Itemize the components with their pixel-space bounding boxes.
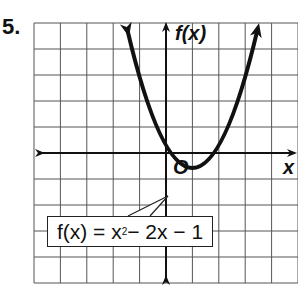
y-axis-label: f(x) [175,22,206,45]
equation-lhs: f(x) = x [57,220,122,244]
label-pointer [128,196,168,216]
x-axis-label: x [283,156,294,179]
graph [0,0,298,292]
equation-label: f(x) = x2− 2x − 1 [47,216,213,247]
equation-rhs: − 2x − 1 [127,220,203,244]
origin-label: O [173,156,189,179]
